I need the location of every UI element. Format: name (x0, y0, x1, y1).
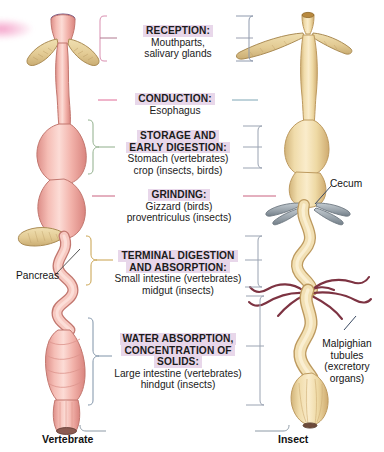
label-water-line-1: Large intestine (vertebrates) (110, 368, 246, 380)
label-conduction-line-1: Esophagus (118, 105, 232, 117)
label-water-absorption: WATER ABSORPTION, CONCENTRATION OF SOLID… (110, 333, 246, 391)
label-conduction-heading: CONDUCTION: (135, 93, 215, 105)
species-label-insect: Insect (278, 433, 308, 445)
label-water-heading-3: SOLIDS: (154, 356, 202, 368)
vertebrate-tract (18, 14, 99, 434)
label-terminal-digestion: TERMINAL DIGESTION AND ABSORPTION: Small… (110, 250, 246, 296)
callout-malpighian-line-1: Malpighian (322, 338, 371, 349)
label-storage-line-2: crop (insects, birds) (112, 165, 244, 177)
label-reception-line-2: salivary glands (118, 48, 238, 60)
label-water-heading-2: CONCENTRATION OF (121, 345, 234, 357)
callout-malpighian-line-4: organs) (330, 373, 365, 384)
insect-salivary-glands (236, 33, 351, 59)
label-conduction: CONDUCTION: Esophagus (118, 93, 232, 116)
label-terminal-line-1: Small intestine (vertebrates) (110, 273, 246, 285)
label-storage-heading-2: EARLY DIGESTION: (126, 142, 229, 154)
callout-malpighian-tubules: Malpighian tubules (excretory organs) (314, 338, 380, 385)
callout-malpighian-line-2: tubules (331, 350, 364, 361)
label-terminal-heading-2: AND ABSORPTION: (126, 262, 229, 274)
label-reception-line-1: Mouthparts, (118, 37, 238, 49)
label-grinding: GRINDING: Gizzard (birds) proventriculus… (114, 189, 244, 224)
label-storage-line-1: Stomach (vertebrates) (112, 153, 244, 165)
label-storage-early-digestion: STORAGE AND EARLY DIGESTION: Stomach (ve… (112, 130, 244, 176)
pancreas-organ (18, 228, 63, 247)
callout-cecum: Cecum (330, 178, 362, 190)
label-water-line-2: hindgut (insects) (110, 379, 246, 391)
figure-canvas: RECEPTION: Mouthparts, salivary glands C… (0, 0, 384, 452)
label-storage-heading-1: STORAGE AND (137, 130, 219, 142)
callout-pancreas: Pancreas (16, 270, 59, 282)
label-reception-heading: RECEPTION: (143, 25, 213, 37)
label-grinding-heading: GRINDING: (148, 189, 209, 201)
label-water-heading-1: WATER ABSORPTION, (120, 333, 237, 345)
label-terminal-heading-1: TERMINAL DIGESTION (118, 250, 237, 262)
label-grinding-line-2: proventriculus (insects) (114, 212, 244, 224)
callout-malpighian-line-3: (excretory (324, 361, 369, 372)
label-reception: RECEPTION: Mouthparts, salivary glands (118, 25, 238, 60)
species-label-vertebrate: Vertebrate (42, 433, 93, 445)
label-terminal-line-2: midgut (insects) (110, 285, 246, 297)
label-grinding-line-1: Gizzard (birds) (114, 201, 244, 213)
